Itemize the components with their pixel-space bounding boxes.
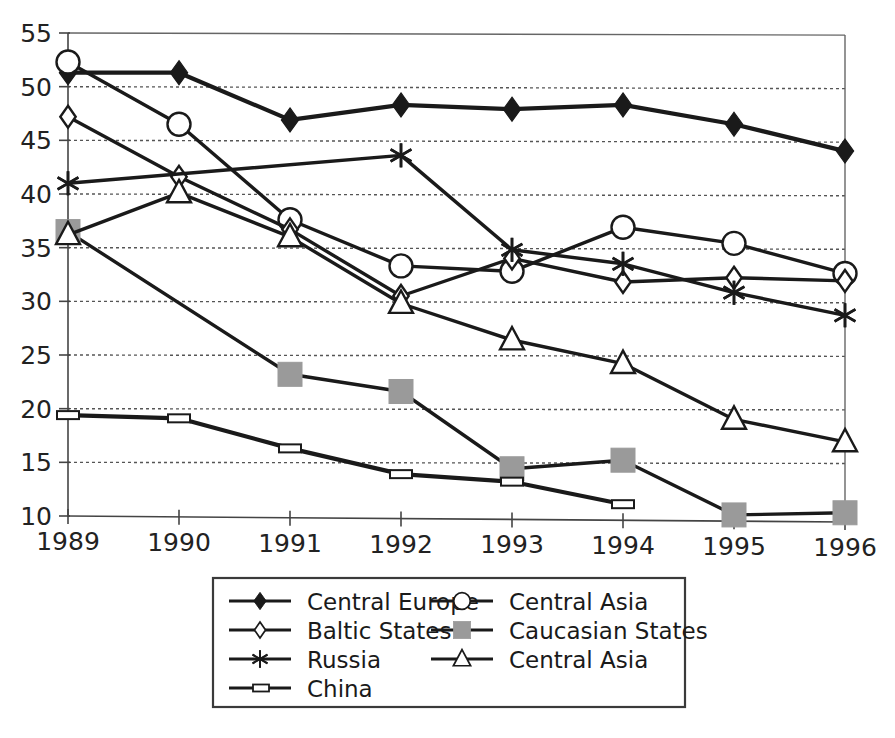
y-tick-label-40: 40 bbox=[20, 180, 52, 209]
y-tick-label-25: 25 bbox=[20, 341, 52, 370]
point-open-triangle bbox=[167, 180, 191, 202]
legend-label: Russia bbox=[307, 647, 381, 673]
x-tick-label-1995: 1995 bbox=[702, 532, 766, 561]
legend-label: Caucasian States bbox=[509, 618, 708, 644]
legend-label: Central Asia bbox=[509, 589, 648, 615]
legend-marker-none-icon bbox=[253, 685, 269, 692]
y-tick-label-20: 20 bbox=[20, 395, 52, 424]
point-china-nub bbox=[612, 500, 634, 508]
x-tick-label-1994: 1994 bbox=[591, 531, 655, 560]
point-open-circle bbox=[390, 254, 413, 277]
legend-gray-square bbox=[453, 621, 470, 638]
x-tick-label-1990: 1990 bbox=[147, 528, 211, 557]
chart-figure: 10152025303540455055 1989199019911992199… bbox=[0, 0, 895, 738]
point-china-nub bbox=[168, 414, 190, 422]
point-gray-square bbox=[722, 503, 746, 527]
legend-marker-open-circle-icon bbox=[454, 593, 471, 610]
y-tick-label-50: 50 bbox=[20, 73, 52, 102]
y-tick-label-45: 45 bbox=[20, 126, 52, 155]
point-open-circle bbox=[168, 113, 191, 136]
x-tick-label-1989: 1989 bbox=[36, 527, 100, 556]
y-axis: 10152025303540455055 bbox=[20, 19, 70, 531]
data-series bbox=[56, 50, 857, 526]
point-filled-diamond bbox=[503, 97, 520, 121]
legend-label: Baltic States bbox=[307, 618, 452, 644]
point-filled-diamond bbox=[281, 108, 298, 132]
series-caucasian-states-3 bbox=[56, 220, 857, 527]
point-gray-square bbox=[278, 362, 302, 386]
x-tick-label-1996: 1996 bbox=[813, 533, 877, 562]
legend: Central EuropeBaltic StatesRussiaChinaCe… bbox=[213, 578, 708, 707]
gridline-30 bbox=[68, 301, 845, 302]
legend-label: China bbox=[307, 676, 373, 702]
series-china-6 bbox=[57, 411, 634, 508]
line-chart-canvas: 10152025303540455055 1989199019911992199… bbox=[0, 0, 895, 738]
legend-marker-gray-square-icon bbox=[453, 621, 470, 638]
series-central-asia-5 bbox=[56, 180, 857, 451]
point-china-nub bbox=[57, 411, 79, 419]
point-open-diamond bbox=[60, 106, 75, 128]
gridline-55 bbox=[68, 33, 845, 35]
series-path bbox=[68, 415, 623, 504]
point-gray-square bbox=[389, 379, 413, 403]
point-open-circle bbox=[57, 50, 80, 73]
legend-open-circle bbox=[454, 593, 471, 610]
gridline-50 bbox=[68, 87, 845, 89]
gridline-15 bbox=[68, 462, 845, 463]
point-china-nub bbox=[390, 470, 412, 478]
point-open-circle bbox=[612, 216, 635, 239]
point-gray-square bbox=[611, 448, 635, 472]
point-filled-diamond bbox=[725, 112, 742, 136]
gridline-45 bbox=[68, 140, 845, 142]
x-tick-label-1991: 1991 bbox=[258, 529, 322, 558]
point-china-nub bbox=[279, 444, 301, 452]
point-china-nub bbox=[501, 478, 523, 486]
point-gray-square bbox=[833, 501, 857, 525]
series-path bbox=[68, 73, 845, 151]
legend-label: Central Asia bbox=[509, 647, 648, 673]
gridline-20 bbox=[68, 409, 845, 410]
y-tick-label-55: 55 bbox=[20, 19, 52, 48]
series-path bbox=[68, 193, 845, 442]
y-tick-label-35: 35 bbox=[20, 234, 52, 263]
point-filled-diamond bbox=[614, 93, 631, 117]
point-open-circle bbox=[723, 232, 746, 255]
y-tick-label-15: 15 bbox=[20, 448, 52, 477]
point-filled-diamond bbox=[170, 61, 187, 85]
gridline-25 bbox=[68, 355, 845, 356]
point-filled-diamond bbox=[392, 93, 409, 117]
x-tick-label-1993: 1993 bbox=[480, 530, 544, 559]
y-tick-label-30: 30 bbox=[20, 287, 52, 316]
x-tick-label-1992: 1992 bbox=[369, 530, 433, 559]
